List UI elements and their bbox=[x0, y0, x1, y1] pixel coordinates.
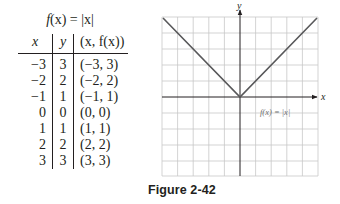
abs-value-graph: x y f(x) = |x| bbox=[0, 0, 340, 204]
figure-caption: Figure 2-42 bbox=[148, 183, 216, 197]
y-axis-label: y bbox=[236, 0, 242, 11]
curve-label: f(x) = |x| bbox=[260, 107, 290, 117]
x-axis-label: x bbox=[320, 91, 326, 102]
